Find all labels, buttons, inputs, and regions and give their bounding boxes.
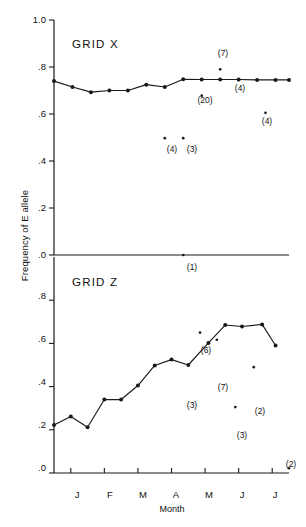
figure-canvas: Frequency of E allele 1.0 .8 .6 .4 .2 .0… (0, 0, 306, 527)
plot-vector-layer (0, 0, 306, 527)
